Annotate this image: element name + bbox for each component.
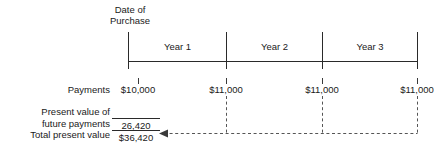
payment-amount-1: $11,000 bbox=[201, 84, 251, 95]
payments-row-label: Payments bbox=[12, 84, 110, 95]
payment-amount-0: $10,000 bbox=[113, 84, 163, 95]
total-present-value-amount: $36,420 bbox=[112, 130, 160, 143]
present-value-timeline-diagram: Date of Purchase Year 1 Year 2 Year 3 Pa… bbox=[0, 0, 446, 154]
timeline-axis bbox=[128, 61, 418, 62]
date-of-purchase-caption: Date of Purchase bbox=[84, 4, 176, 26]
date-of-purchase-line2: Purchase bbox=[84, 15, 176, 26]
total-present-value-label: Total present value bbox=[2, 129, 110, 140]
present-value-label-line2: future payments bbox=[2, 118, 110, 130]
date-of-purchase-line1: Date of bbox=[115, 4, 146, 15]
year-segment-label-2: Year 2 bbox=[227, 41, 322, 52]
year-segment-label-1: Year 1 bbox=[129, 41, 226, 52]
payment-amount-3: $11,000 bbox=[392, 84, 442, 95]
payment-amount-2: $11,000 bbox=[297, 84, 347, 95]
timeline-tick-3 bbox=[417, 32, 418, 69]
present-value-label: Present value of future payments bbox=[2, 106, 110, 129]
present-value-label-line1: Present value of bbox=[41, 106, 110, 117]
year-segment-label-3: Year 3 bbox=[323, 41, 417, 52]
discount-arrowhead-icon bbox=[159, 130, 168, 138]
